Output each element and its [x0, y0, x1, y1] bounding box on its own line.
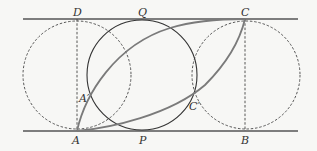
geometry-diagram: D Q C A′ C′ A P B [0, 0, 317, 151]
label-A-prime: A′ [78, 92, 90, 105]
label-C-prime: C′ [189, 100, 200, 113]
label-P: P [138, 134, 147, 147]
label-A: A [71, 134, 80, 147]
lower-curve-A-to-C [77, 19, 245, 131]
upper-curve-A-to-C [77, 19, 245, 131]
right-dashed-circle [192, 21, 300, 129]
label-D: D [72, 6, 82, 19]
label-Q: Q [138, 6, 147, 19]
label-B: B [240, 134, 249, 147]
diagram-svg: D Q C A′ C′ A P B [0, 0, 317, 151]
label-C: C [241, 6, 250, 19]
